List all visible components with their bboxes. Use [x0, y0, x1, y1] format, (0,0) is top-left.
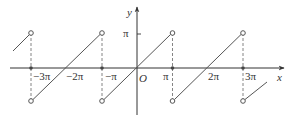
x-tick-label-2pi: 2π [208, 70, 220, 82]
x-tick-label-m3pi: −3π [33, 70, 51, 82]
filled-dot [171, 66, 175, 70]
segment-1 [13, 35, 30, 52]
filled-dot [100, 66, 104, 70]
y-tick-label-pi: π [123, 27, 129, 39]
open-circle [29, 31, 34, 36]
x-tick-label-m2pi: −2π [66, 70, 84, 82]
sawtooth-chart: y x O π −3π −2π −π π 2π 3π [0, 0, 288, 131]
open-circle [170, 31, 175, 36]
open-circle [29, 99, 34, 104]
open-circle [241, 31, 246, 36]
open-circle [170, 99, 175, 104]
open-circle [100, 31, 105, 36]
y-axis-label: y [126, 6, 132, 18]
x-tick-label-pi: π [163, 70, 169, 82]
segment-5 [245, 82, 267, 100]
segment-2 [33, 35, 100, 100]
open-circle [100, 99, 105, 104]
segment-4 [175, 35, 242, 100]
open-circle [241, 99, 246, 104]
x-tick-label-3pi: 3π [245, 70, 257, 82]
sawtooth-series [13, 35, 267, 100]
x-tick-label-mpi: −π [105, 70, 117, 82]
x-axis-label: x [276, 71, 282, 83]
origin-label: O [139, 72, 147, 84]
